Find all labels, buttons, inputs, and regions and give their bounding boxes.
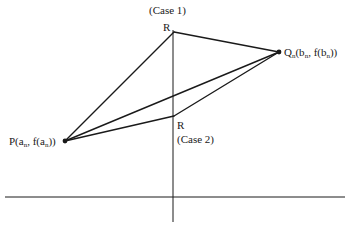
segment-p-r2 (65, 116, 174, 141)
case-2-label: (Case 2) (177, 133, 214, 146)
segment-p-q (65, 52, 279, 141)
segments (65, 32, 279, 141)
point-q (277, 50, 282, 55)
segment-r1-q (174, 32, 279, 52)
point-p (63, 139, 68, 144)
p-label: P(an, f(an)) (9, 135, 56, 149)
r2-label: R (177, 119, 185, 131)
case-1-label: (Case 1) (149, 4, 186, 17)
r1-label: R (163, 21, 171, 33)
segment-p-r1 (65, 32, 174, 141)
diagram-canvas: (Case 1) R R (Case 2) P(an, f(an)) Qn(bn… (0, 0, 351, 231)
q-label: Qn(bn, f(bn)) (284, 46, 338, 60)
segment-r2-q (174, 52, 279, 116)
